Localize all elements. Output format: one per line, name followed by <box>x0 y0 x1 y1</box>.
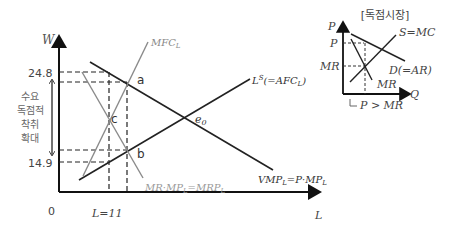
y-axis-label: W <box>42 33 56 47</box>
mrp-label: MR·MPL=MRPL <box>144 182 225 195</box>
exploitation-line-2: 독점적 <box>17 105 44 116</box>
exploitation-label: 수요 독점적 착취 확대 <box>17 91 44 144</box>
inset-note-arrow-icon <box>350 99 357 106</box>
diagram-canvas: W 24.8 14.9 0 L=11 L 수요 독점적 착취 확대 a b c … <box>0 0 451 234</box>
inset-y-axis-label: P <box>327 20 336 33</box>
wage-low-tick: 14.9 <box>28 157 53 170</box>
curves <box>79 42 273 180</box>
supply-label: LS(=AFCL) <box>251 74 306 88</box>
labor-tick: L=11 <box>91 207 123 220</box>
point-e0: e0 <box>195 113 207 127</box>
mfc-label: MFCL <box>150 37 181 50</box>
inset-demand-curve <box>351 34 405 61</box>
point-a: a <box>137 73 144 87</box>
inset-demand-label: D(=AR) <box>388 64 432 77</box>
point-b: b <box>137 147 145 161</box>
inset-mr-tick: MR <box>319 60 340 73</box>
point-c: c <box>111 112 118 126</box>
inset-monopoly-chart: [독점시장] P P MR S=MC D(=AR) MR Q P > MR <box>319 9 436 112</box>
origin-label: 0 <box>48 205 55 218</box>
inset-title: [독점시장] <box>361 9 410 22</box>
vmp-label: VMPL=P·MPL <box>258 174 327 187</box>
inset-mr-curve-label: MR <box>376 78 397 91</box>
inset-x-axis-label: Q <box>410 88 419 101</box>
x-axis-label: L <box>314 209 322 222</box>
exploitation-line-4: 확대 <box>21 133 39 144</box>
wage-high-tick: 24.8 <box>28 67 53 80</box>
supply-curve <box>79 79 250 180</box>
inset-note: P > MR <box>359 99 403 112</box>
inset-supply-label: S=MC <box>399 26 436 39</box>
inset-price-tick: P <box>329 37 338 50</box>
inset-mr-curve <box>351 39 372 80</box>
exploitation-line-3: 착취 <box>21 119 39 130</box>
exploitation-line-1: 수요 <box>21 91 39 102</box>
